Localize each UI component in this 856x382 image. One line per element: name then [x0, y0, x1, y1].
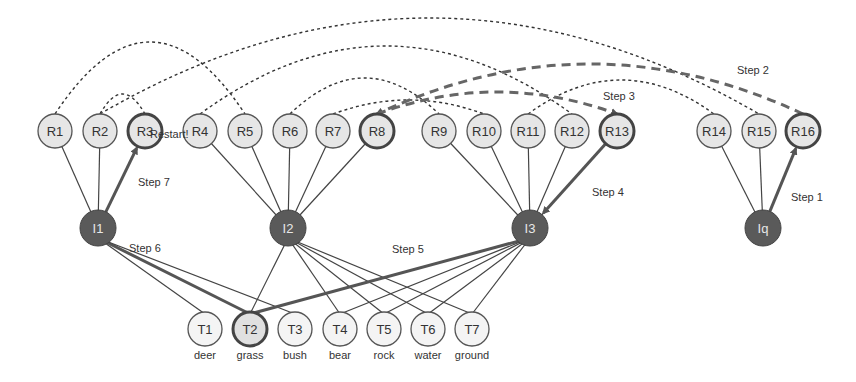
node-t7: T7ground: [455, 312, 489, 361]
node-t5: T5rock: [367, 312, 401, 361]
node-r14: R14: [697, 114, 731, 148]
node-label: R12: [560, 124, 584, 139]
node-label: T7: [464, 322, 479, 337]
word-label: water: [414, 349, 442, 361]
word-label: ground: [455, 349, 489, 361]
edge-I1-T3: [98, 238, 295, 314]
node-r2: R2: [83, 114, 117, 148]
node-t6: T6water: [411, 312, 445, 361]
node-r10: R10: [467, 114, 501, 148]
node-r12: R12: [555, 114, 589, 148]
node-label: R10: [472, 124, 496, 139]
node-iq: Iq: [745, 210, 781, 246]
word-label: grass: [237, 349, 264, 361]
arc-R2-R15: [100, 18, 759, 114]
node-r7: R7: [316, 114, 350, 148]
node-r13: R13: [600, 114, 634, 148]
node-t2: T2grass: [233, 312, 267, 361]
node-label: I2: [283, 221, 294, 236]
step5-label: Step 5: [392, 243, 424, 255]
arc-R8-R13: [377, 92, 617, 114]
edge-I2-T7: [288, 238, 472, 314]
step2-label: Step 2: [737, 64, 769, 76]
node-r6: R6: [273, 114, 307, 148]
node-label: I3: [525, 221, 536, 236]
word-label: bush: [283, 349, 307, 361]
node-t1: T1deer: [188, 312, 222, 361]
step7-label: Step 7: [138, 176, 170, 188]
node-label: T5: [376, 322, 391, 337]
node-i2: I2: [270, 210, 306, 246]
word-label: bear: [329, 349, 351, 361]
step-arrow-R13-I3: [543, 144, 605, 213]
node-label: T2: [242, 322, 257, 337]
step3-label: Step 3: [603, 90, 635, 102]
node-r11: R11: [511, 114, 545, 148]
edge-I3-T2: [250, 238, 530, 314]
node-label: T4: [332, 322, 347, 337]
step4-label: Step 4: [592, 186, 624, 198]
word-label: deer: [194, 349, 216, 361]
node-label: R2: [92, 124, 109, 139]
node-label: T3: [287, 322, 302, 337]
node-t3: T3bush: [278, 312, 312, 361]
node-label: R4: [192, 124, 209, 139]
node-label: R5: [237, 124, 254, 139]
step1-label: Step 1: [791, 191, 823, 203]
node-label: T6: [420, 322, 435, 337]
node-r5: R5: [228, 114, 262, 148]
node-i1: I1: [80, 210, 116, 246]
step-arrow-I1-R3: [106, 148, 137, 212]
node-r15: R15: [742, 114, 776, 148]
word-label: rock: [374, 349, 395, 361]
node-label: Iq: [758, 221, 769, 236]
restart-label: Restart!: [150, 128, 189, 140]
node-label: R9: [431, 124, 448, 139]
node-r1: R1: [38, 114, 72, 148]
graph-edges: [55, 131, 803, 314]
node-t4: T4bear: [323, 312, 357, 361]
node-label: R11: [517, 124, 540, 139]
node-label: R16: [791, 124, 815, 139]
node-r9: R9: [422, 114, 456, 148]
node-i3: I3: [512, 210, 548, 246]
arc-R4-R12: [200, 46, 572, 114]
node-label: R7: [325, 124, 342, 139]
node-r8: R8: [360, 114, 394, 148]
walk-arcs: [55, 18, 803, 114]
node-label: T1: [197, 322, 212, 337]
edge-I2-T2: [250, 238, 288, 314]
edge-I3-T6: [428, 238, 530, 314]
node-label: I1: [93, 221, 104, 236]
arc-R2-R3: [100, 94, 145, 114]
node-label: R6: [282, 124, 299, 139]
edge-I1-T2: [98, 238, 250, 314]
arc-R7-R10: [333, 100, 484, 114]
node-label: R14: [702, 124, 726, 139]
random-walk-diagram: R1R2R3R4R5R6R7R8R9R10R11R12R13R14R15R16I…: [0, 0, 856, 382]
graph-nodes: R1R2R3R4R5R6R7R8R9R10R11R12R13R14R15R16I…: [38, 114, 820, 361]
node-label: R8: [369, 124, 386, 139]
node-label: R1: [47, 124, 64, 139]
step-arrows: [106, 144, 796, 213]
node-label: R15: [747, 124, 771, 139]
step6-label: Step 6: [129, 242, 161, 254]
node-r16: R16: [786, 114, 820, 148]
node-label: R13: [605, 124, 629, 139]
